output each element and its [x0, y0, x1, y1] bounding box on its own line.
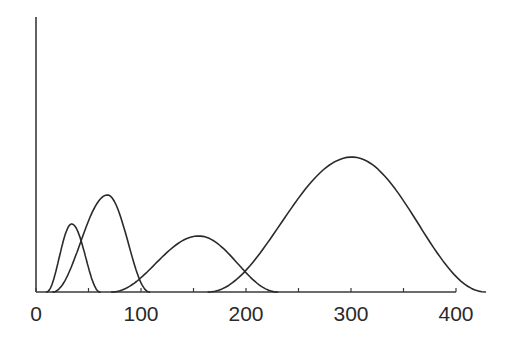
chart: 0100200300400	[0, 0, 512, 337]
curve-peak-4	[208, 157, 485, 292]
x-tick-label: 100	[123, 302, 158, 325]
curve-peak-2	[53, 195, 150, 292]
x-tick-labels: 0100200300400	[30, 302, 473, 325]
x-tick-label: 0	[30, 302, 42, 325]
x-tick-label: 300	[333, 302, 368, 325]
curve-peak-3	[112, 236, 278, 292]
x-tick-label: 200	[228, 302, 263, 325]
curves	[47, 157, 486, 292]
curve-peak-1	[47, 224, 101, 292]
x-tick-label: 400	[438, 302, 473, 325]
